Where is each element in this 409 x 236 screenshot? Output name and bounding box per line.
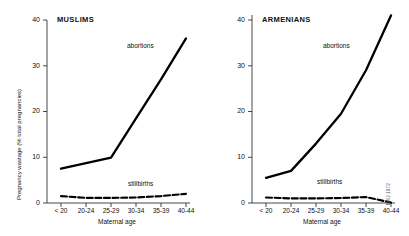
series-label-abortions: abortions	[127, 42, 154, 49]
x-tick-label-40-44: 40-44	[376, 207, 406, 214]
y-tick-label-0: 0	[18, 199, 40, 206]
series-line-abortions	[61, 38, 186, 168]
y-tick-label-0: 0	[223, 199, 245, 206]
figure-pregnancy-wastage-by-maternal-age: MUSLIMS Pregnancy wastage (% total pregn…	[0, 0, 409, 236]
series-label-stillbirths: stillbirths	[317, 178, 342, 185]
series-line-stillbirths	[266, 197, 391, 202]
y-tick-label-20: 20	[18, 107, 40, 114]
series-line-stillbirths	[61, 194, 186, 198]
y-tick-label-30: 30	[18, 62, 40, 69]
y-tick-label-10: 10	[223, 153, 245, 160]
series-label-stillbirths: stillbirths	[128, 180, 153, 187]
x-axis-label: Maternal age	[303, 218, 341, 225]
y-tick-label-30: 30	[223, 62, 245, 69]
y-axis-label: Pregnancy wastage (% total pregnancies)	[16, 89, 22, 200]
x-tick-label-40-44: 40-44	[171, 207, 201, 214]
series-label-abortions: abortions	[323, 42, 350, 49]
y-tick-label-40: 40	[18, 16, 40, 23]
series-line-abortions	[266, 15, 391, 177]
x-axis-label: Maternal age	[98, 218, 136, 225]
chart-panel-armenians: ARMENIANS Maternal age 0 10 20 30 40 < 2…	[205, 0, 409, 236]
panel-title-muslims: MUSLIMS	[57, 15, 94, 24]
y-tick-label-20: 20	[223, 107, 245, 114]
panel-title-armenians: ARMENIANS	[262, 15, 311, 24]
source-credit: BMJ 1972	[386, 183, 391, 205]
chart-panel-muslims: MUSLIMS Pregnancy wastage (% total pregn…	[0, 0, 204, 236]
y-tick-label-10: 10	[18, 153, 40, 160]
y-tick-label-40: 40	[223, 16, 245, 23]
